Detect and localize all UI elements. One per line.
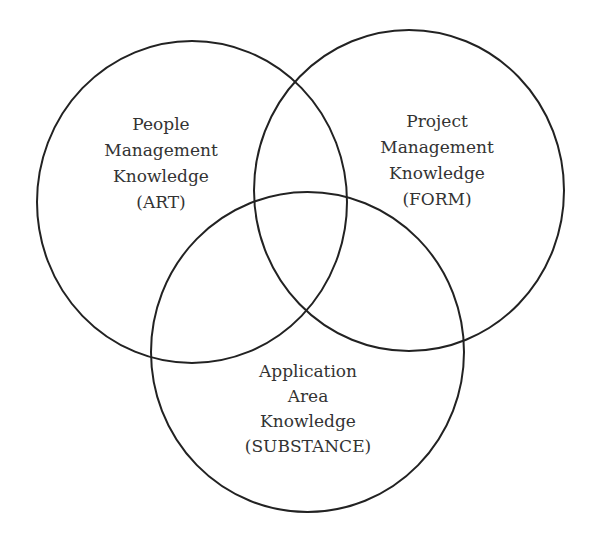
label-line: People [132,114,189,134]
label-line: Knowledge [260,411,356,431]
venn-diagram: People Management Knowledge (ART) Projec… [0,0,594,538]
label-line: (SUBSTANCE) [245,436,371,456]
label-line: Management [104,140,218,160]
application-area-circle [151,192,464,512]
people-management-circle [37,41,347,363]
label-line: (ART) [136,192,185,212]
label-line: Application [258,361,357,381]
label-line: (FORM) [402,189,471,209]
project-management-label: Project Management Knowledge (FORM) [380,111,494,209]
label-line: Management [380,137,494,157]
label-line: Knowledge [113,166,209,186]
label-line: Knowledge [389,163,485,183]
people-management-label: People Management Knowledge (ART) [104,114,218,212]
label-line: Area [287,386,329,406]
application-area-label: Application Area Knowledge (SUBSTANCE) [245,361,371,456]
label-line: Project [406,111,468,131]
